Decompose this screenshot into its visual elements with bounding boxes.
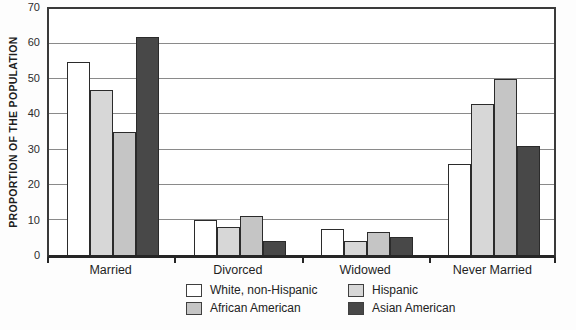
bar-hispanic-married [90,90,113,255]
bar-african-american-widowed [367,232,390,255]
bar-group-divorced [176,9,303,255]
x-axis-category-labels: MarriedDivorcedWidowedNever Married [47,263,556,277]
legend-item-asian-american: Asian American [348,301,455,315]
y-tick-label-50: 50 [0,72,40,84]
bar-asian-american-never-married [517,146,540,255]
bar-african-american-never-married [494,79,517,255]
legend-item-white-non-hispanic: White, non-Hispanic [186,283,348,297]
plot-area [47,7,556,258]
bar-white-non-hispanic-never-married [448,164,471,255]
y-tick-label-40: 40 [0,107,40,119]
chart-legend: White, non-HispanicHispanicAfrican Ameri… [186,283,455,315]
y-tick-label-0: 0 [0,249,40,261]
bar-group-never-married [431,9,558,255]
y-tick-label-20: 20 [0,178,40,190]
y-tick-label-70: 70 [0,1,40,13]
bar-white-non-hispanic-widowed [321,229,344,255]
legend-swatch-icon [186,284,202,297]
legend-label: African American [210,301,301,315]
bar-group-widowed [304,9,431,255]
bar-asian-american-married [136,37,159,255]
legend-label: Hispanic [372,283,418,297]
x-label-married: Married [47,263,174,277]
bar-african-american-divorced [240,216,263,255]
bar-white-non-hispanic-married [67,62,90,255]
x-label-never-married: Never Married [429,263,556,277]
bar-hispanic-widowed [344,241,367,255]
x-label-divorced: Divorced [174,263,301,277]
legend-item-hispanic: Hispanic [348,283,455,297]
bar-african-american-married [113,132,136,255]
legend-label: White, non-Hispanic [210,283,317,297]
bar-chart-figure: PROPORTION OF THE POPULATION 01020304050… [0,0,576,330]
legend-item-african-american: African American [186,301,348,315]
y-tick-label-60: 60 [0,36,40,48]
y-axis-title: PROPORTION OF THE POPULATION [7,26,19,238]
y-tick-label-10: 10 [0,214,40,226]
bar-white-non-hispanic-divorced [194,220,217,255]
legend-swatch-icon [348,302,364,315]
bar-asian-american-widowed [390,237,413,255]
legend-label: Asian American [372,301,455,315]
bar-hispanic-never-married [471,104,494,255]
y-tick-label-30: 30 [0,143,40,155]
bar-asian-american-divorced [263,241,286,255]
legend-swatch-icon [186,302,202,315]
x-label-widowed: Widowed [302,263,429,277]
bar-hispanic-divorced [217,227,240,255]
bar-group-married [49,9,176,255]
legend-swatch-icon [348,284,364,297]
